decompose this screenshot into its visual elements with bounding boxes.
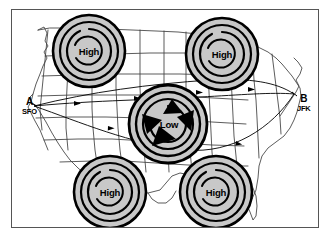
destination-code: JFK (297, 104, 311, 113)
weather-map-figure: High High High High Low A SFO B JFK (0, 0, 331, 240)
destination-letter: B (297, 93, 311, 104)
high-label-nw: High (79, 46, 99, 57)
endpoint-origin: A SFO (22, 96, 37, 116)
high-label-se: High (206, 187, 226, 198)
high-label-ne: High (212, 49, 232, 60)
origin-code: SFO (22, 107, 37, 116)
origin-letter: A (22, 96, 37, 107)
endpoint-destination: B JFK (297, 93, 311, 113)
low-label-center: Low (160, 119, 178, 130)
high-label-sw: High (100, 187, 120, 198)
